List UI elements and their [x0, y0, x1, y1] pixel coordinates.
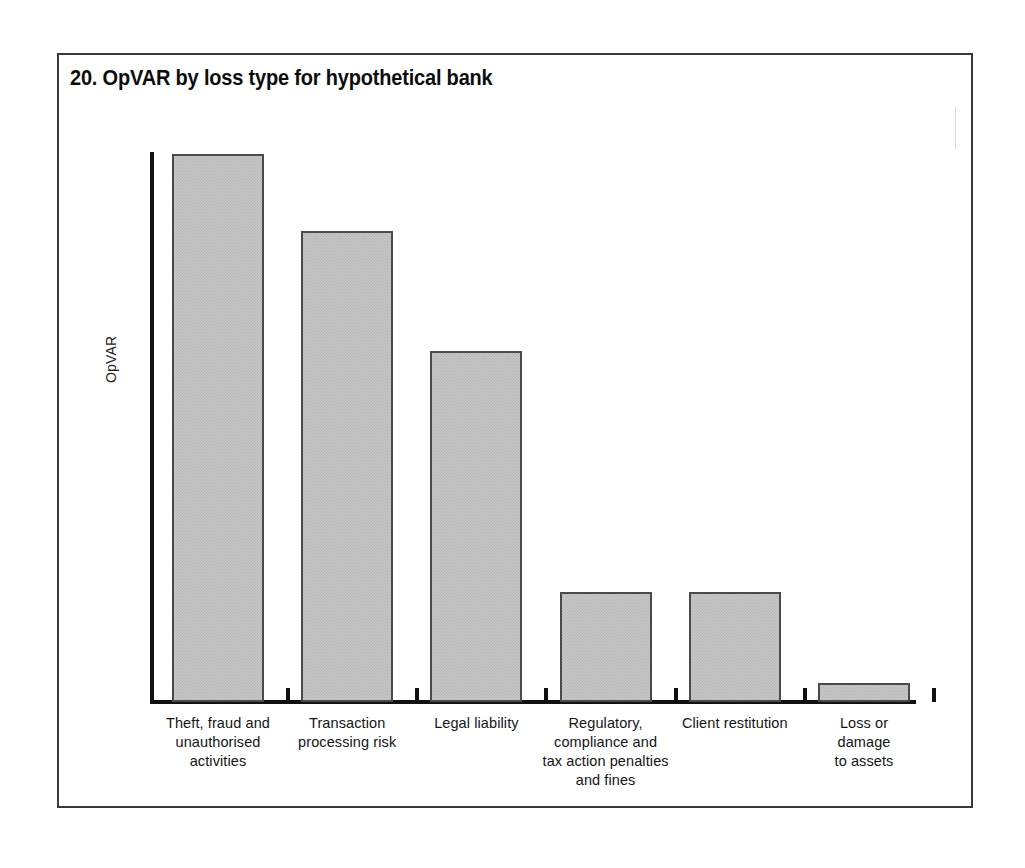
bar-3 — [560, 592, 652, 702]
bar-1 — [301, 231, 393, 702]
category-label-line: to assets — [769, 752, 959, 771]
category-label-line: compliance and — [511, 733, 701, 752]
y-axis-line — [150, 152, 154, 702]
category-label-line: activities — [123, 752, 313, 771]
bar-0 — [172, 154, 264, 702]
category-label-line: Loss or — [769, 714, 959, 733]
category-label-line: damage — [769, 733, 959, 752]
x-tick-1 — [415, 688, 419, 702]
category-label-line: and fines — [511, 771, 701, 790]
category-label-5: Loss ordamageto assets — [769, 714, 959, 771]
plot-area: Theft, fraud andunauthorisedactivitiesTr… — [150, 152, 916, 704]
scan-artifact — [955, 107, 956, 149]
x-tick-3 — [674, 688, 678, 702]
y-axis-label: OpVAR — [103, 336, 119, 383]
x-tick-origin — [150, 688, 154, 702]
chart-title: 20. OpVAR by loss type for hypothetical … — [70, 66, 493, 91]
x-axis-line — [150, 700, 916, 704]
category-label-line: tax action penalties — [511, 752, 701, 771]
bar-2 — [430, 351, 522, 702]
x-tick-0 — [286, 688, 290, 702]
x-tick-4 — [803, 688, 807, 702]
x-tick-5 — [932, 688, 936, 702]
x-tick-2 — [544, 688, 548, 702]
bar-5 — [818, 683, 910, 702]
bar-4 — [689, 592, 781, 702]
category-label-line: processing risk — [252, 733, 442, 752]
